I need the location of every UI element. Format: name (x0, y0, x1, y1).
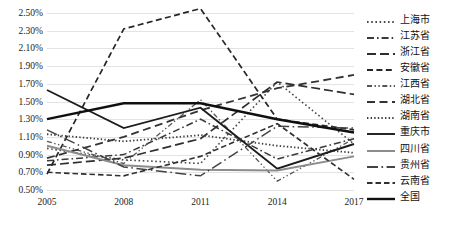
legend-label: 云南省 (400, 175, 430, 187)
plot-area: 2.50%2.30%2.10%1.90%1.70%1.50%1.30%1.10%… (0, 0, 363, 233)
legend-swatch-icon (366, 143, 396, 155)
series-lines (47, 13, 354, 190)
legend-label: 重庆市 (400, 126, 430, 138)
legend-swatch-icon (366, 14, 396, 26)
legend-label: 江苏省 (400, 30, 430, 42)
y-axis-tick-label: 1.50% (18, 97, 43, 107)
legend-item-10[interactable]: 云南省 (366, 173, 462, 189)
legend-label: 湖北省 (400, 94, 430, 106)
legend: 上海市江苏省浙江省安徽省江西省湖北省湖南省重庆市四川省贵州省云南省全国 (366, 12, 462, 222)
legend-swatch-icon (366, 46, 396, 58)
legend-item-0[interactable]: 上海市 (366, 12, 462, 28)
y-axis-tick-label: 1.70% (18, 79, 43, 89)
y-axis-tick-label: 2.10% (18, 43, 43, 53)
x-axis-tick-label: 2005 (38, 196, 57, 208)
legend-swatch-icon (366, 159, 396, 171)
legend-label: 安徽省 (400, 62, 430, 74)
legend-label: 四川省 (400, 143, 430, 155)
legend-label: 江西省 (400, 78, 430, 90)
y-axis-tick-label: 0.70% (18, 167, 43, 177)
series-line-3 (47, 9, 354, 174)
legend-label: 全国 (400, 191, 420, 203)
y-axis-tick-label: 2.30% (18, 26, 43, 36)
legend-item-1[interactable]: 江苏省 (366, 28, 462, 44)
legend-swatch-icon (366, 62, 396, 74)
legend-swatch-icon (366, 126, 396, 138)
y-axis-tick-label: 1.10% (18, 132, 43, 142)
y-axis-tick-label: 1.30% (18, 114, 43, 124)
legend-item-3[interactable]: 安徽省 (366, 60, 462, 76)
legend-swatch-icon (366, 94, 396, 106)
line-chart: 2.50%2.30%2.10%1.90%1.70%1.50%1.30%1.10%… (0, 0, 463, 233)
y-axis-tick-label: 0.90% (18, 150, 43, 160)
legend-swatch-icon (366, 78, 396, 90)
y-axis-tick-label: 1.90% (18, 61, 43, 71)
legend-label: 贵州省 (400, 159, 430, 171)
legend-swatch-icon (366, 30, 396, 42)
legend-label: 上海市 (400, 14, 430, 26)
x-axis-tick-labels: 20052008201120142017 (47, 196, 354, 218)
legend-item-4[interactable]: 江西省 (366, 76, 462, 92)
y-axis-tick-label: 0.50% (18, 185, 43, 195)
x-axis-tick-label: 2008 (114, 196, 133, 208)
legend-label: 浙江省 (400, 46, 430, 58)
x-axis-tick-label: 2011 (191, 196, 210, 208)
legend-item-8[interactable]: 四川省 (366, 141, 462, 157)
x-axis-tick-label: 2014 (268, 196, 287, 208)
legend-item-7[interactable]: 重庆市 (366, 125, 462, 141)
gridline (47, 190, 354, 191)
y-axis-tick-label: 2.50% (18, 8, 43, 18)
legend-label: 湖南省 (400, 110, 430, 122)
legend-item-6[interactable]: 湖南省 (366, 109, 462, 125)
x-axis-tick-label: 2017 (345, 196, 364, 208)
legend-swatch-icon (366, 191, 396, 203)
legend-swatch-icon (366, 175, 396, 187)
series-line-6 (47, 134, 354, 153)
legend-item-5[interactable]: 湖北省 (366, 93, 462, 109)
legend-item-2[interactable]: 浙江省 (366, 44, 462, 60)
legend-item-11[interactable]: 全国 (366, 189, 462, 205)
legend-item-9[interactable]: 贵州省 (366, 157, 462, 173)
legend-swatch-icon (366, 110, 396, 122)
